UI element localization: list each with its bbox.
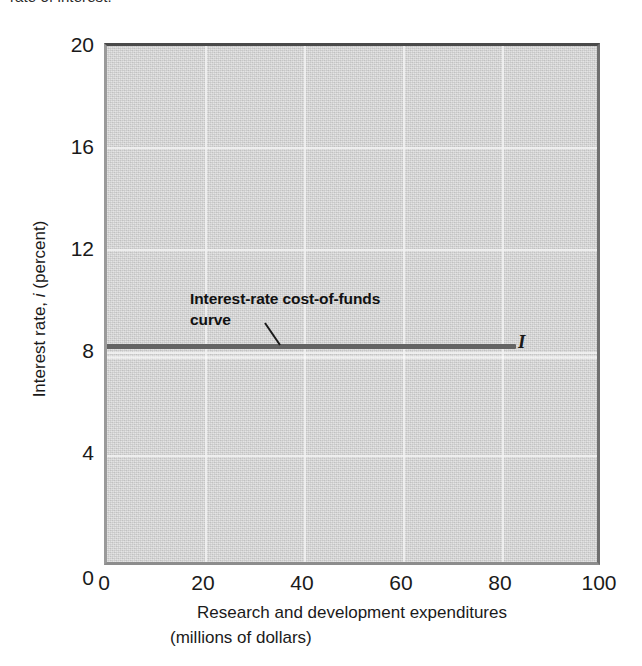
- interest-rate-cost-of-funds-curve: [106, 344, 516, 349]
- y-tick-4: 4: [50, 441, 94, 465]
- y-tick-20: 20: [50, 33, 94, 57]
- y-tick-8: 8: [50, 339, 94, 363]
- gridline-horizontal-12: [107, 249, 597, 251]
- curve-highlight: [107, 356, 600, 359]
- x-axis-title-line-1: Research and development expenditures: [104, 601, 600, 626]
- y-tick-16: 16: [50, 135, 94, 159]
- annotation-line-2: curve: [190, 311, 231, 328]
- curve-annotation: Interest-rate cost-of-funds curve: [190, 289, 440, 330]
- gridline-vertical-80: [502, 46, 504, 562]
- x-tick-20: 20: [173, 571, 233, 595]
- annotation-line-1: Interest-rate cost-of-funds: [190, 290, 380, 307]
- y-axis-title-prefix: Interest rate,: [30, 297, 49, 397]
- gridline-horizontal-4: [107, 455, 597, 457]
- y-axis-title-symbol: i: [30, 293, 49, 297]
- y-axis-ticks: 20 16 12 8 4 0: [46, 0, 94, 666]
- x-axis-title-line-2: (millions of dollars): [104, 626, 600, 651]
- x-axis-ticks: 0 20 40 60 80 100: [0, 571, 642, 601]
- x-tick-100: 100: [569, 571, 629, 595]
- curve-symbol-label: I: [518, 331, 525, 353]
- y-axis-title: Interest rate, i (percent): [30, 169, 50, 449]
- y-axis-title-suffix: (percent): [30, 221, 49, 294]
- x-axis-title: Research and development expenditures (m…: [104, 601, 600, 650]
- x-tick-40: 40: [272, 571, 332, 595]
- x-tick-0: 0: [74, 571, 134, 595]
- gridline-horizontal-16: [107, 147, 597, 149]
- x-tick-80: 80: [470, 571, 530, 595]
- figure-container: I Interest-rate cost-of-funds curve 20 1…: [0, 0, 642, 666]
- y-tick-12: 12: [50, 237, 94, 261]
- x-tick-60: 60: [371, 571, 431, 595]
